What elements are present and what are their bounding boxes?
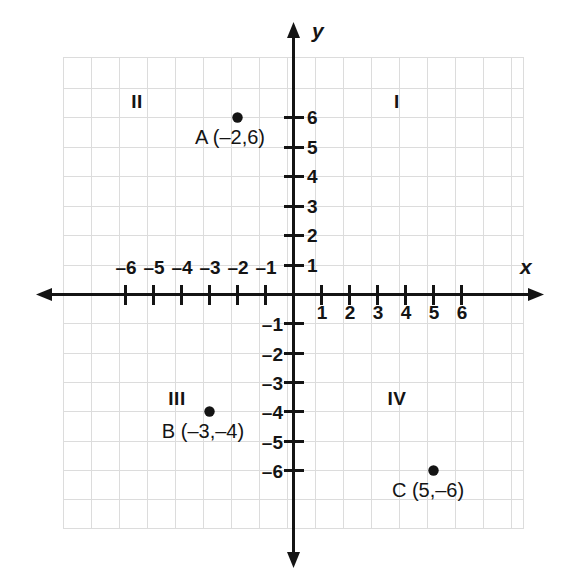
x-tick-label-neg3: –3 (199, 258, 220, 277)
x-tick-label-neg4: –4 (171, 258, 192, 277)
x-tick-label-6: 6 (457, 303, 468, 322)
point-marker-c (428, 465, 438, 475)
y-tick-label-neg6: –6 (262, 462, 283, 481)
y-tick-label-1: 1 (307, 256, 318, 275)
point-label-b: B (–3,–4) (162, 421, 244, 441)
y-tick-label-neg1: –1 (262, 315, 283, 334)
plot-canvas (0, 0, 572, 582)
y-axis-arrow-up (287, 22, 300, 38)
x-tick-label-4: 4 (401, 303, 412, 322)
x-tick-label-2: 2 (345, 303, 356, 322)
point-label-c: C (5,–6) (392, 480, 464, 500)
y-tick-label-neg2: –2 (262, 345, 283, 364)
x-tick-label-neg2: –2 (227, 258, 248, 277)
point-marker-b (204, 406, 214, 416)
x-tick-label-1: 1 (317, 303, 328, 322)
x-axis-arrow-left (36, 288, 52, 301)
x-axis-label: x (520, 256, 532, 277)
y-tick-label-neg5: –5 (262, 433, 283, 452)
x-tick-label-5: 5 (429, 303, 440, 322)
y-axis-arrow-down (287, 552, 300, 568)
x-axis-arrow-right (528, 288, 544, 301)
y-tick-label-3: 3 (307, 197, 318, 216)
y-tick-label-2: 2 (307, 226, 318, 245)
x-tick-label-neg1: –1 (255, 258, 276, 277)
quadrant-two-label: II (131, 92, 143, 111)
point-label-a: A (–2,6) (195, 127, 265, 147)
x-tick-label-neg5: –5 (143, 258, 164, 277)
y-axis-label: y (312, 20, 324, 41)
quadrant-one-label: I (394, 92, 400, 111)
x-tick-label-3: 3 (373, 303, 384, 322)
y-tick-label-6: 6 (307, 108, 318, 127)
coordinate-plane-figure: y x –6 –5 –4 –3 –2 –1 1 2 3 4 5 6 6 5 4 … (0, 0, 572, 582)
x-axis (36, 288, 544, 301)
y-tick-label-neg4: –4 (262, 403, 283, 422)
quadrant-three-label: III (168, 389, 185, 408)
y-tick-label-4: 4 (307, 167, 318, 186)
quadrant-four-label: IV (388, 389, 407, 408)
y-tick-label-5: 5 (307, 138, 318, 157)
y-tick-label-neg3: –3 (262, 374, 283, 393)
x-tick-label-neg6: –6 (115, 258, 136, 277)
point-marker-a (232, 112, 242, 122)
